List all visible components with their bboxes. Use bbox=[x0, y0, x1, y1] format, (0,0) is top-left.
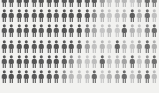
person-icon bbox=[8, 23, 16, 38]
person-icon bbox=[15, 69, 23, 84]
person-icon bbox=[30, 69, 38, 84]
person-icon bbox=[15, 8, 23, 23]
person-icon bbox=[68, 54, 76, 69]
person-icon bbox=[0, 54, 8, 69]
person-icon bbox=[8, 0, 16, 8]
person-icon bbox=[91, 8, 99, 23]
person-icon bbox=[113, 54, 121, 69]
person-icon bbox=[151, 8, 159, 23]
pictogram-chart bbox=[0, 0, 159, 93]
person-icon bbox=[136, 23, 144, 38]
person-icon bbox=[128, 0, 136, 8]
person-icon bbox=[23, 69, 31, 84]
person-icon bbox=[143, 54, 151, 69]
person-icon bbox=[83, 54, 91, 69]
person-icon bbox=[0, 23, 8, 38]
person-icon bbox=[113, 39, 121, 54]
person-icon bbox=[38, 23, 46, 38]
person-icon bbox=[68, 23, 76, 38]
person-icon bbox=[98, 69, 106, 84]
person-icon bbox=[60, 54, 68, 69]
person-icon bbox=[15, 54, 23, 69]
person-icon bbox=[83, 69, 91, 84]
person-icon bbox=[8, 54, 16, 69]
person-icon bbox=[75, 39, 83, 54]
person-icon bbox=[60, 0, 68, 8]
person-icon bbox=[30, 0, 38, 8]
person-icon bbox=[91, 69, 99, 84]
person-icon bbox=[143, 69, 151, 84]
person-icon bbox=[75, 23, 83, 38]
person-icon bbox=[0, 39, 8, 54]
person-icon bbox=[75, 8, 83, 23]
person-icon bbox=[38, 39, 46, 54]
person-icon bbox=[143, 0, 151, 8]
person-icon bbox=[151, 23, 159, 38]
person-icon bbox=[151, 39, 159, 54]
person-icon bbox=[23, 8, 31, 23]
person-icon bbox=[128, 8, 136, 23]
person-icon bbox=[128, 23, 136, 38]
person-icon bbox=[136, 0, 144, 8]
person-icon bbox=[8, 69, 16, 84]
person-icon bbox=[53, 23, 61, 38]
person-icon bbox=[121, 39, 129, 54]
person-icon bbox=[75, 0, 83, 8]
person-icon bbox=[38, 8, 46, 23]
person-icon bbox=[38, 69, 46, 84]
person-icon bbox=[98, 23, 106, 38]
person-icon bbox=[128, 39, 136, 54]
person-icon bbox=[23, 54, 31, 69]
person-icon bbox=[15, 39, 23, 54]
person-icon bbox=[121, 54, 129, 69]
person-icon bbox=[83, 8, 91, 23]
person-icon bbox=[106, 69, 114, 84]
person-icon bbox=[38, 0, 46, 8]
person-icon bbox=[68, 69, 76, 84]
person-icon bbox=[98, 0, 106, 8]
person-icon bbox=[68, 0, 76, 8]
person-icon bbox=[23, 23, 31, 38]
person-icon bbox=[30, 23, 38, 38]
person-icon bbox=[98, 39, 106, 54]
person-icon bbox=[23, 0, 31, 8]
person-icon bbox=[143, 39, 151, 54]
person-icon bbox=[143, 23, 151, 38]
person-icon bbox=[113, 0, 121, 8]
person-icon bbox=[143, 8, 151, 23]
person-icon bbox=[113, 23, 121, 38]
person-icon bbox=[45, 69, 53, 84]
person-icon bbox=[121, 69, 129, 84]
person-icon bbox=[121, 0, 129, 8]
person-icon bbox=[136, 8, 144, 23]
person-icon bbox=[8, 39, 16, 54]
person-icon bbox=[91, 23, 99, 38]
person-icon bbox=[30, 54, 38, 69]
person-icon bbox=[30, 39, 38, 54]
person-icon bbox=[113, 8, 121, 23]
person-icon bbox=[45, 54, 53, 69]
person-icon bbox=[0, 8, 8, 23]
person-icon bbox=[53, 0, 61, 8]
person-icon bbox=[0, 69, 8, 84]
person-icon bbox=[0, 0, 8, 8]
person-icon bbox=[53, 69, 61, 84]
person-icon bbox=[106, 23, 114, 38]
person-icon bbox=[98, 8, 106, 23]
person-icon bbox=[151, 54, 159, 69]
person-icon bbox=[151, 0, 159, 8]
person-icon bbox=[91, 39, 99, 54]
person-icon bbox=[45, 23, 53, 38]
person-icon bbox=[30, 8, 38, 23]
person-icon bbox=[106, 8, 114, 23]
person-icon bbox=[113, 69, 121, 84]
person-icon bbox=[106, 54, 114, 69]
person-icon bbox=[106, 39, 114, 54]
person-icon bbox=[98, 54, 106, 69]
person-icon bbox=[136, 54, 144, 69]
person-icon bbox=[53, 54, 61, 69]
person-icon bbox=[136, 69, 144, 84]
person-icon bbox=[38, 54, 46, 69]
person-icon bbox=[68, 39, 76, 54]
person-icon bbox=[75, 69, 83, 84]
